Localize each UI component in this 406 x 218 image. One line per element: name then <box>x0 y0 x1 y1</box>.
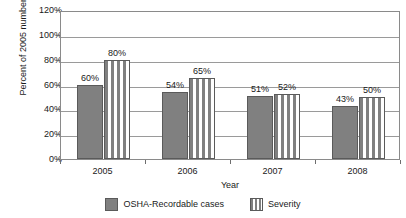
y-axis-tick-label: 60% <box>14 81 62 90</box>
x-axis-tick-mark <box>400 160 401 164</box>
y-axis-tick-label: 40% <box>14 105 62 114</box>
x-axis-tick-label: 2007 <box>230 166 315 177</box>
y-axis-tick-label: 0% <box>14 155 62 164</box>
bar-group: 54%65% <box>146 12 231 159</box>
y-axis-tick-labels: 0%20%40%60%80%100%120% <box>6 0 62 170</box>
x-axis-tick-label: 2006 <box>145 166 230 177</box>
x-axis-tick-marks <box>60 160 400 165</box>
bar-2005-severity <box>104 60 130 159</box>
x-axis-tick-label: 2008 <box>315 166 400 177</box>
x-axis-tick-mark <box>315 160 316 164</box>
bar-chart-figure: Percent of 2005 numbers 0%20%40%60%80%10… <box>0 0 406 218</box>
bar-value-label: 50% <box>355 86 389 95</box>
x-axis-tick-label: 2005 <box>60 166 145 177</box>
y-axis-tick-label: 100% <box>14 31 62 40</box>
chart-legend: OSHA-Recordable casesSeverity <box>0 195 406 213</box>
bar-value-label: 80% <box>100 49 134 58</box>
bar-2007-severity <box>274 94 300 159</box>
bar-2006-osha <box>162 92 188 159</box>
bar-value-label: 52% <box>270 83 304 92</box>
bar-value-label: 43% <box>328 95 362 104</box>
legend-label: OSHA-Recordable cases <box>123 199 224 209</box>
y-axis-tick-label: 120% <box>14 6 62 15</box>
x-axis-tick-mark <box>145 160 146 164</box>
x-axis-tick-mark <box>60 160 61 164</box>
bar-group: 51%52% <box>231 12 316 159</box>
bar-2007-osha <box>247 96 273 159</box>
bar-2005-osha <box>77 85 103 160</box>
bar-value-label: 60% <box>73 74 107 83</box>
legend-label: Severity <box>268 199 301 209</box>
legend-swatch-striped <box>250 198 263 211</box>
bar-2008-severity <box>359 97 385 159</box>
x-axis-tick-mark <box>230 160 231 164</box>
y-axis-tick-label: 20% <box>14 130 62 139</box>
bar-value-label: 65% <box>185 67 219 76</box>
plot-area: 60%80%54%65%51%52%43%50% <box>60 11 400 160</box>
legend-entry-severity: Severity <box>250 198 301 211</box>
bar-group: 43%50% <box>316 12 401 159</box>
y-axis-tick-label: 80% <box>14 56 62 65</box>
bar-group: 60%80% <box>61 12 146 159</box>
x-axis-title: Year <box>60 180 400 191</box>
bar-value-label: 54% <box>158 81 192 90</box>
bar-2008-osha <box>332 106 358 159</box>
x-axis-tick-labels: 2005200620072008 <box>60 166 400 178</box>
legend-swatch-solid <box>105 198 118 211</box>
legend-entry-osha-recordable-cases: OSHA-Recordable cases <box>105 198 224 211</box>
bar-2006-severity <box>189 78 215 159</box>
